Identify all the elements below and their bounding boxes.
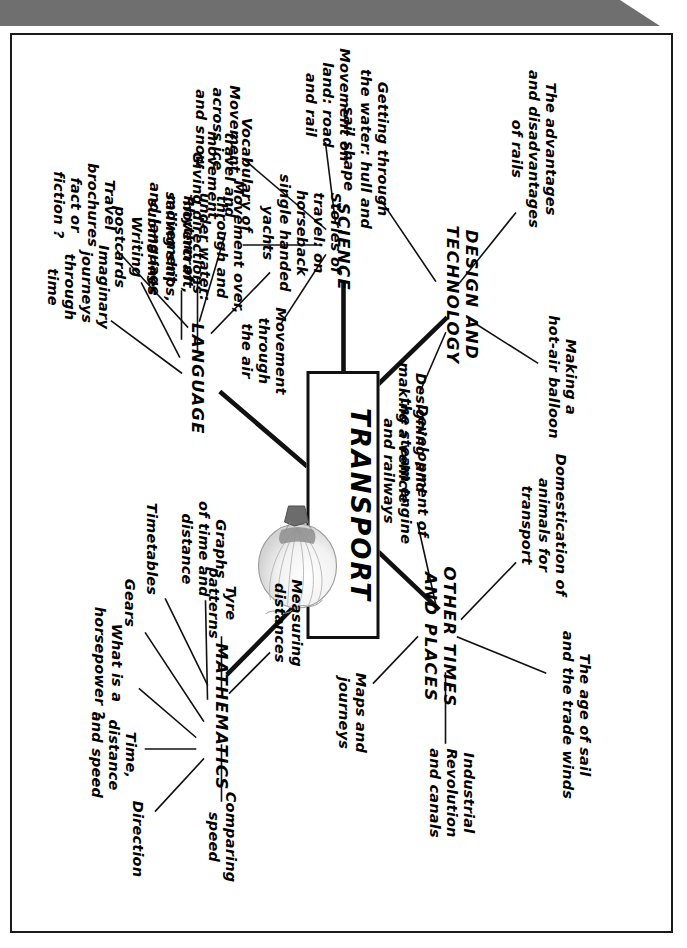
link-ma-direction [155, 759, 203, 811]
node-direction[interactable]: Direction [128, 801, 145, 878]
node-travel-brochures[interactable]: Travel brochures fact or fiction ? [49, 163, 117, 247]
mindmap-page: TRANSPORT [0, 0, 687, 948]
node-time-distance-speed[interactable]: Time, distance and speed [87, 712, 138, 798]
node-comparing-speed[interactable]: Comparing speed [204, 792, 238, 883]
node-movement-through-air[interactable]: Movement through the air [237, 307, 288, 394]
node-movement-over-water[interactable]: Movement over, through and under water: … [144, 180, 247, 314]
page-frame: TRANSPORT [10, 33, 673, 933]
node-age-of-sail[interactable]: The age of sail and the trade winds [558, 631, 592, 799]
node-advantages-of-rails[interactable]: The advantages and disadvantages of rail… [507, 70, 558, 228]
branch-mathematics[interactable]: MATHEMATICS [211, 643, 230, 791]
branch-design-and-technology[interactable]: DESIGN AND TECHNOLOGY [442, 225, 481, 364]
node-domestication-of-animals[interactable]: Domestication of animals for transport [517, 454, 568, 597]
node-measuring-distances[interactable]: Measuring distances [270, 579, 304, 667]
node-gears[interactable]: Gears [120, 579, 137, 627]
branch-language[interactable]: LANGUAGE [187, 323, 206, 435]
node-making-hot-air-balloon[interactable]: Making a hot-air balloon [544, 315, 578, 439]
node-timetables[interactable]: Timetables [142, 503, 159, 595]
link-dt-hot-air-balloon [477, 325, 537, 363]
link-ma-measuring-distances [229, 653, 269, 693]
link-ot-domestication [461, 563, 515, 619]
node-what-is-a-horsepower[interactable]: What is a horsepower ? [90, 607, 124, 719]
link-la-imaginary-journeys [111, 321, 181, 373]
spoke-language [221, 393, 305, 465]
link-ot-age-of-sail [457, 637, 545, 673]
node-steam-engine-railways[interactable]: Development of the steam engine and rail… [379, 398, 430, 544]
node-imaginary-journeys[interactable]: Imaginary journeys through time [43, 245, 111, 329]
node-graphs-time-distance[interactable]: Graphs of time and distance [177, 501, 228, 597]
mindmap-canvas: TRANSPORT [10, 33, 673, 933]
link-ma-gears [145, 633, 203, 721]
node-stories-of-travel[interactable]: Stories of travel: on horseback single h… [258, 174, 344, 292]
node-maps-and-journeys[interactable]: Maps and journeys [334, 673, 368, 753]
link-ot-maps-journeys [373, 637, 417, 683]
node-industrial-revolution[interactable]: Industrial Revolution and canals [425, 748, 476, 838]
center-node-label: TRANSPORT [339, 371, 379, 639]
mindmap-rotor: TRANSPORT [10, 33, 673, 933]
branch-other-times-and-places[interactable]: OTHER TIMES AND PLACES [420, 566, 459, 707]
node-movement-on-land[interactable]: Movement on land: road and rail [301, 48, 352, 161]
node-movement-across-ice[interactable]: Movement across ice and snow [191, 85, 242, 172]
top-gray-bar [0, 0, 687, 26]
